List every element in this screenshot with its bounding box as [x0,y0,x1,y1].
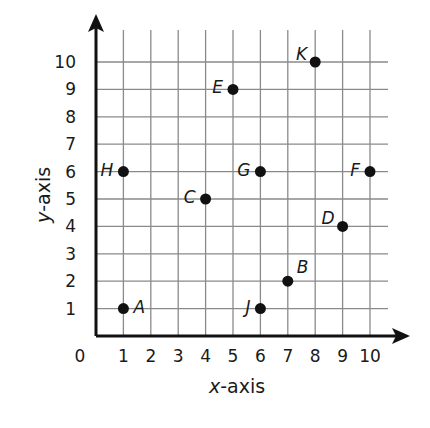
point-marker-icon [310,57,321,68]
point-label: F [350,160,360,180]
x-tick-label: 2 [145,346,156,366]
point-label: D [322,208,335,228]
point-label: H [101,160,114,180]
point-label: J [242,297,250,317]
x-tick-label: 6 [255,346,266,366]
y-tick-label: 10 [54,52,76,72]
x-axis-label: x-axis [208,375,265,397]
point-g: G [237,160,266,180]
y-tick-label: 9 [65,79,76,99]
data-points: ABCDEFGHJK [101,44,376,317]
point-b: B [282,257,308,287]
point-label: B [297,257,309,277]
point-label: E [212,77,223,97]
y-tick-label: 7 [65,134,76,154]
x-tick-label: 4 [200,346,211,366]
point-marker-icon [255,166,266,177]
x-tick-label: 5 [228,346,239,366]
x-tick-label: 7 [282,346,293,366]
point-label: K [296,44,309,64]
point-a: A [118,297,145,317]
x-tick-label: 3 [173,346,184,366]
y-tick-label: 8 [65,107,76,127]
x-tick-label: 9 [337,346,348,366]
coordinate-plane: 01234567891012345678910 ABCDEFGHJK x-axi… [0,0,430,428]
point-c: C [184,187,211,207]
point-label: G [237,160,250,180]
point-marker-icon [118,166,129,177]
y-tick-label: 1 [65,299,76,319]
point-label: A [132,297,145,317]
y-tick-label: 5 [65,189,76,209]
point-j: J [242,297,266,317]
x-tick-label: 8 [310,346,321,366]
point-marker-icon [365,166,376,177]
x-tick-label: 1 [118,346,129,366]
point-k: K [296,44,321,68]
point-marker-icon [282,276,293,287]
point-label: C [184,187,196,207]
point-h: H [101,160,129,180]
y-tick-label: 6 [65,162,76,182]
point-d: D [322,208,349,232]
y-axis-label: y-axis [32,167,54,224]
x-tick-label: 10 [359,346,381,366]
point-marker-icon [337,221,348,232]
grid-lines [96,30,388,336]
point-e: E [212,77,238,97]
y-tick-label: 4 [65,216,76,236]
point-marker-icon [118,303,129,314]
y-tick-label: 2 [65,271,76,291]
x-tick-label: 0 [75,346,86,366]
point-marker-icon [255,303,266,314]
point-marker-icon [228,84,239,95]
point-marker-icon [200,194,211,205]
point-f: F [350,160,375,180]
y-tick-label: 3 [65,244,76,264]
